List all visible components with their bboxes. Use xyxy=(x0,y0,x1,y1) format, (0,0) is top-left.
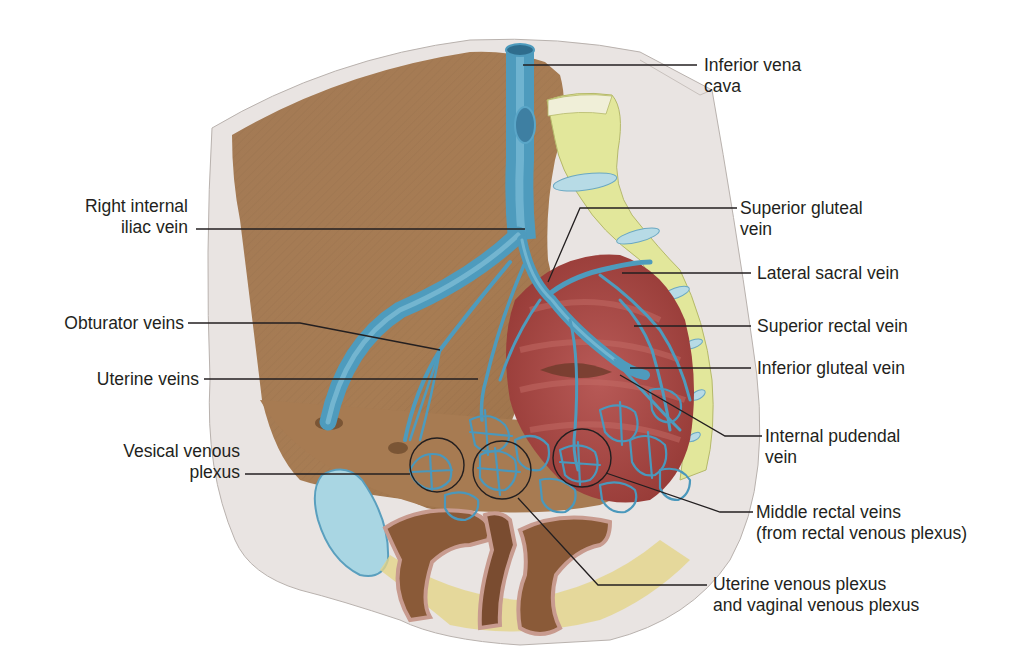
label-line: Vesical venous xyxy=(123,441,240,462)
renal-vein-opening xyxy=(515,107,535,143)
label-right-internal-iliac-vein: Right internal iliac vein xyxy=(85,196,188,238)
label-inferior-gluteal-vein: Inferior gluteal vein xyxy=(757,358,905,379)
label-line: Obturator veins xyxy=(64,313,184,334)
label-line: Right internal xyxy=(85,196,188,217)
label-line: Uterine veins xyxy=(97,369,199,390)
label-line: Inferior vena xyxy=(704,55,801,76)
label-line: Superior rectal vein xyxy=(757,316,908,337)
label-line: Inferior gluteal vein xyxy=(757,358,905,379)
label-inferior-vena-cava: Inferior vena cava xyxy=(704,55,801,97)
pelvic-veins-figure: Right internal iliac vein Obturator vein… xyxy=(0,0,1022,655)
label-superior-rectal-vein: Superior rectal vein xyxy=(757,316,908,337)
label-middle-rectal-veins: Middle rectal veins (from rectal venous … xyxy=(756,502,967,544)
label-uterine-veins: Uterine veins xyxy=(97,369,199,390)
label-line: vein xyxy=(765,447,900,468)
label-internal-pudendal-vein: Internal pudendal vein xyxy=(765,426,900,468)
label-line: Internal pudendal xyxy=(765,426,900,447)
ivc-opening xyxy=(506,44,534,56)
label-line: Uterine venous plexus xyxy=(713,574,919,595)
label-line: vein xyxy=(740,219,863,240)
label-lateral-sacral-vein: Lateral sacral vein xyxy=(757,263,899,284)
label-line: (from rectal venous plexus) xyxy=(756,523,967,544)
label-line: Superior gluteal xyxy=(740,198,863,219)
label-line: cava xyxy=(704,76,801,97)
label-uterine-vaginal-venous-plexus: Uterine venous plexus and vaginal venous… xyxy=(713,574,919,616)
label-line: and vaginal venous plexus xyxy=(713,595,919,616)
label-line: Middle rectal veins xyxy=(756,502,967,523)
label-line: Lateral sacral vein xyxy=(757,263,899,284)
label-line: plexus xyxy=(123,462,240,483)
label-superior-gluteal-vein: Superior gluteal vein xyxy=(740,198,863,240)
label-line: iliac vein xyxy=(85,217,188,238)
label-vesical-venous-plexus: Vesical venous plexus xyxy=(123,441,240,483)
label-obturator-veins: Obturator veins xyxy=(64,313,184,334)
